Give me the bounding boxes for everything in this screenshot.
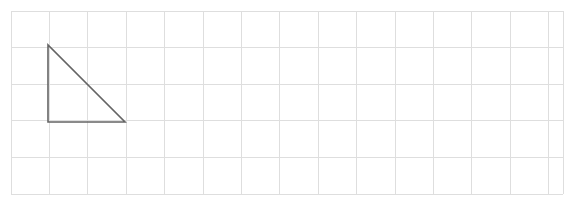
figure-svg bbox=[0, 0, 569, 205]
canvas-background bbox=[0, 0, 569, 205]
drawing-canvas bbox=[0, 0, 569, 205]
